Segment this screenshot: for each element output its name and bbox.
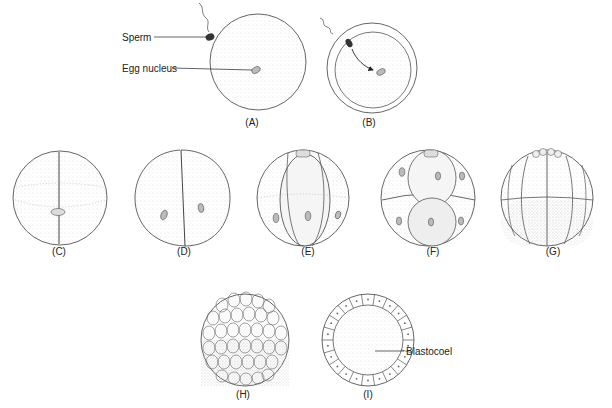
- blastocoel-label: Blastocoel: [406, 347, 452, 357]
- panel-label-i: (I): [363, 390, 372, 400]
- blastocoel-cavity: [333, 305, 403, 375]
- panel-b-egg: [320, 18, 417, 113]
- panel-g-sixteen-cell: [501, 149, 593, 247]
- sperm-label: Sperm: [122, 33, 151, 43]
- panel-label-a: (A): [245, 118, 258, 128]
- panel-a-egg: [154, 3, 306, 110]
- egg-nucleus-label: Egg nucleus: [122, 64, 177, 74]
- panel-label-f: (F): [427, 247, 440, 257]
- panel-d-two-cell: [135, 150, 230, 246]
- panel-label-h: (H): [236, 390, 250, 400]
- panel-h-morula: [201, 292, 289, 386]
- panel-c-first-cleavage: [13, 151, 107, 245]
- sperm-head: [205, 32, 216, 42]
- sperm-tail: [320, 18, 333, 34]
- panel-label-e: (E): [301, 247, 314, 257]
- panel-i-blastula: [322, 294, 414, 386]
- panel-e-four-cell: [257, 150, 349, 246]
- panel-label-g: (G): [546, 247, 560, 257]
- panel-label-b: (B): [362, 118, 375, 128]
- panel-label-d: (D): [177, 247, 191, 257]
- panel-f-eight-cell: [381, 150, 475, 246]
- embryo-development-diagram: [0, 0, 612, 408]
- panel-label-c: (C): [52, 247, 66, 257]
- sperm-tail: [199, 3, 209, 32]
